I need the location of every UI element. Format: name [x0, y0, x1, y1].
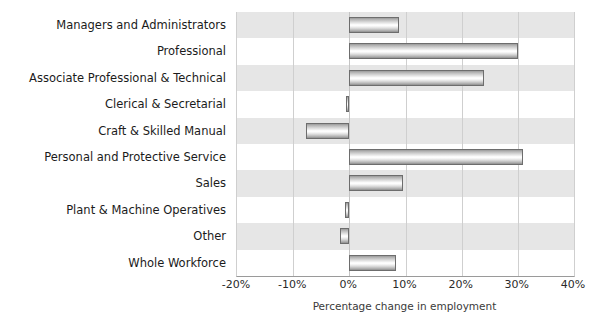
x-tick-label: 40% — [561, 278, 585, 291]
bar — [349, 43, 518, 59]
bar — [349, 149, 523, 165]
category-label: Associate Professional & Technical — [29, 65, 226, 91]
bar — [306, 123, 350, 139]
bar — [349, 175, 402, 191]
category-axis-labels: Managers and AdministratorsProfessionalA… — [0, 12, 232, 276]
x-axis-ticks: -20%-10%0%10%20%30%40% — [236, 278, 573, 298]
bar-row — [237, 223, 574, 249]
bar-row — [237, 118, 574, 144]
x-tick-label: -20% — [222, 278, 250, 291]
bar-row — [237, 197, 574, 223]
bar — [345, 202, 349, 218]
bar — [346, 96, 349, 112]
bar-row — [237, 38, 574, 64]
x-tick-label: 20% — [448, 278, 472, 291]
category-label: Plant & Machine Operatives — [66, 197, 226, 223]
category-label: Whole Workforce — [128, 250, 226, 276]
bar — [340, 228, 349, 244]
bar-row — [237, 12, 574, 38]
x-tick-label: 10% — [392, 278, 416, 291]
plot-area — [236, 12, 575, 277]
bar-row — [237, 250, 574, 276]
category-label: Professional — [157, 38, 226, 64]
x-tick-label: -10% — [278, 278, 306, 291]
category-label: Other — [193, 223, 226, 249]
category-label: Craft & Skilled Manual — [98, 118, 226, 144]
category-label: Sales — [195, 170, 226, 196]
category-label: Clerical & Secretarial — [105, 91, 226, 117]
bar — [349, 17, 398, 33]
bar-row — [237, 170, 574, 196]
bar — [349, 255, 396, 271]
bar-row — [237, 144, 574, 170]
bar-row — [237, 91, 574, 117]
category-label: Personal and Protective Service — [44, 144, 226, 170]
x-tick-label: 30% — [505, 278, 529, 291]
cut-off-title — [6, 0, 306, 3]
category-label: Managers and Administrators — [56, 12, 226, 38]
bar — [349, 70, 484, 86]
bar-row — [237, 65, 574, 91]
x-tick-label: 0% — [340, 278, 357, 291]
x-axis-title: Percentage change in employment — [236, 300, 573, 312]
bar-chart: Managers and AdministratorsProfessionalA… — [0, 0, 602, 333]
